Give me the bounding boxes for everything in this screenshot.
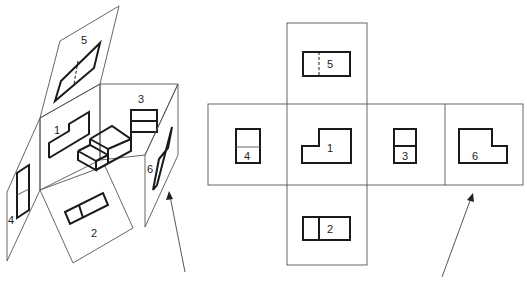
view-2-divider	[79, 205, 83, 218]
plane-4	[7, 118, 40, 261]
label-5: 5	[81, 34, 87, 46]
flat-net: 5 4 1 3 6 2	[208, 23, 523, 277]
net-label-2: 2	[327, 223, 333, 235]
view-2-outline	[65, 193, 108, 224]
net-label-1: 1	[327, 142, 333, 154]
net-label-6: 6	[472, 150, 478, 162]
arrow-head-right-icon	[467, 193, 474, 202]
pointer-arrow-left	[170, 196, 185, 272]
net-label-3: 3	[402, 150, 408, 162]
plane-1	[40, 84, 100, 190]
isometric-unfold: 5 1 3 6 4 2	[7, 6, 185, 272]
label-1: 1	[54, 124, 60, 136]
view-5-outline	[55, 43, 100, 101]
plane-2	[40, 166, 133, 263]
pointer-arrow-right	[442, 198, 471, 277]
label-3: 3	[138, 93, 144, 105]
label-4: 4	[8, 214, 14, 226]
net-view-6	[459, 129, 507, 163]
view-6-outline	[153, 127, 172, 190]
view-4-divider	[17, 189, 29, 195]
isometric-object	[78, 126, 131, 170]
net-label-5: 5	[327, 58, 333, 70]
net-label-4: 4	[244, 150, 250, 162]
arrow-head-left-icon	[166, 191, 173, 200]
projection-diagram: 5 1 3 6 4 2	[0, 0, 527, 281]
label-2: 2	[91, 227, 97, 239]
label-6: 6	[147, 163, 153, 175]
net-horizontal-strip	[208, 104, 523, 185]
